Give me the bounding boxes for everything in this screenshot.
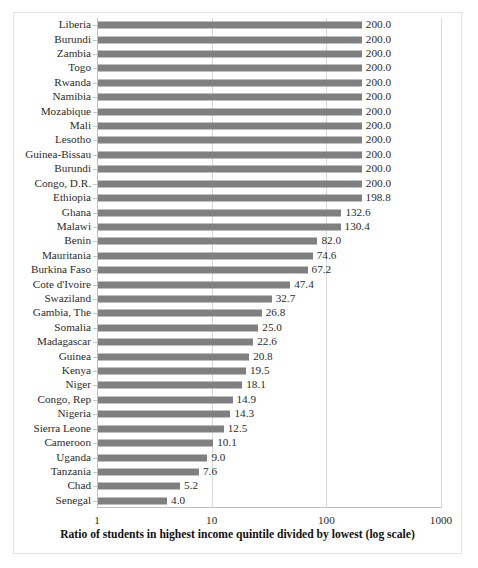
bar bbox=[98, 425, 224, 432]
y-tick-mark bbox=[93, 357, 97, 358]
y-tick-mark bbox=[93, 83, 97, 84]
bar-value-label: 12.5 bbox=[228, 423, 248, 434]
bar-value-label: 200.0 bbox=[366, 149, 391, 160]
bar-row: Kenya19.5 bbox=[97, 364, 441, 378]
bar-value-label: 26.8 bbox=[266, 308, 286, 319]
y-tick-mark bbox=[93, 371, 97, 372]
bar bbox=[98, 151, 362, 158]
bar-row: Guinea20.8 bbox=[97, 349, 441, 363]
x-tick-label: 1 bbox=[94, 514, 100, 526]
bar-row: Benin82.0 bbox=[97, 234, 441, 248]
bar-value-label: 200.0 bbox=[366, 120, 391, 131]
category-label: Mali bbox=[70, 120, 91, 131]
chart-inner: Liberia200.0Burundi200.0Zambia200.0Togo2… bbox=[14, 13, 461, 553]
bar-row: Burkina Faso67.2 bbox=[97, 263, 441, 277]
bar-row: Congo, D.R.200.0 bbox=[97, 177, 441, 191]
bar bbox=[98, 223, 341, 230]
bar bbox=[98, 468, 199, 475]
bar bbox=[98, 281, 290, 288]
y-tick-mark bbox=[93, 313, 97, 314]
bar-value-label: 200.0 bbox=[366, 106, 391, 117]
category-label: Rwanda bbox=[54, 77, 91, 88]
bar-row: Nigeria14.3 bbox=[97, 407, 441, 421]
bar-value-label: 200.0 bbox=[366, 34, 391, 45]
bar-row: Somalia25.0 bbox=[97, 321, 441, 335]
x-axis-title: Ratio of students in highest income quin… bbox=[14, 528, 461, 541]
bar-row: Niger18.1 bbox=[97, 378, 441, 392]
y-tick-mark bbox=[93, 443, 97, 444]
category-label: Chad bbox=[67, 481, 91, 492]
bar bbox=[98, 94, 362, 101]
bar-value-label: 82.0 bbox=[321, 236, 341, 247]
bar-row: Cameroon10.1 bbox=[97, 436, 441, 450]
plot-area: Liberia200.0Burundi200.0Zambia200.0Togo2… bbox=[97, 18, 441, 508]
gridline bbox=[441, 18, 442, 508]
bar-row: Ethiopia198.8 bbox=[97, 191, 441, 205]
bar bbox=[98, 483, 180, 490]
bar bbox=[98, 65, 362, 72]
bar-row: Guinea-Bissau200.0 bbox=[97, 148, 441, 162]
bar-value-label: 9.0 bbox=[211, 452, 225, 463]
category-label: Swaziland bbox=[44, 293, 91, 304]
y-tick-mark bbox=[93, 126, 97, 127]
category-label: Somalia bbox=[54, 322, 91, 333]
bar-row: Uganda9.0 bbox=[97, 450, 441, 464]
bar bbox=[98, 238, 317, 245]
y-tick-mark bbox=[93, 400, 97, 401]
bar bbox=[98, 195, 362, 202]
bar bbox=[98, 368, 246, 375]
bar-row: Malawi130.4 bbox=[97, 220, 441, 234]
y-tick-mark bbox=[93, 458, 97, 459]
y-tick-mark bbox=[93, 140, 97, 141]
bar-row: Madagascar22.6 bbox=[97, 335, 441, 349]
bar-value-label: 200.0 bbox=[366, 63, 391, 74]
bar-row: Senegal4.0 bbox=[97, 494, 441, 508]
bar bbox=[98, 296, 272, 303]
category-label: Mauritania bbox=[42, 250, 91, 261]
y-tick-mark bbox=[93, 25, 97, 26]
bar bbox=[98, 497, 167, 504]
bar bbox=[98, 396, 233, 403]
y-tick-mark bbox=[93, 97, 97, 98]
bar-value-label: 25.0 bbox=[262, 322, 282, 333]
x-tick-label: 100 bbox=[318, 514, 335, 526]
bar bbox=[98, 22, 362, 29]
bar bbox=[98, 166, 362, 173]
category-label: Cameroon bbox=[44, 438, 91, 449]
bar-value-label: 198.8 bbox=[366, 193, 391, 204]
bar-value-label: 132.6 bbox=[345, 207, 370, 218]
bar-value-label: 32.7 bbox=[276, 293, 296, 304]
bar-row: Mauritania74.6 bbox=[97, 249, 441, 263]
chart-frame: Liberia200.0Burundi200.0Zambia200.0Togo2… bbox=[13, 12, 462, 554]
bar-value-label: 200.0 bbox=[366, 178, 391, 189]
y-tick-mark bbox=[93, 54, 97, 55]
category-label: Togo bbox=[68, 63, 91, 74]
y-tick-mark bbox=[93, 501, 97, 502]
bar bbox=[98, 382, 242, 389]
bar-value-label: 7.6 bbox=[203, 466, 217, 477]
category-label: Cote d'Ivoire bbox=[33, 279, 91, 290]
bar-value-label: 14.9 bbox=[237, 394, 257, 405]
category-label: Namibia bbox=[52, 92, 91, 103]
y-tick-mark bbox=[93, 198, 97, 199]
bar-row: Gambia, The26.8 bbox=[97, 306, 441, 320]
bar-row: Swaziland32.7 bbox=[97, 292, 441, 306]
bar bbox=[98, 267, 308, 274]
bar bbox=[98, 51, 362, 58]
category-label: Ethiopia bbox=[53, 193, 91, 204]
category-label: Gambia, The bbox=[33, 308, 91, 319]
bar-row: Namibia200.0 bbox=[97, 90, 441, 104]
bar-row: Mali200.0 bbox=[97, 119, 441, 133]
y-tick-mark bbox=[93, 169, 97, 170]
category-label: Senegal bbox=[56, 495, 91, 506]
category-label: Burundi bbox=[54, 164, 91, 175]
bar-row: Ghana132.6 bbox=[97, 205, 441, 219]
bar-value-label: 18.1 bbox=[246, 380, 266, 391]
bar-value-label: 47.4 bbox=[294, 279, 314, 290]
y-tick-mark bbox=[93, 299, 97, 300]
bar bbox=[98, 324, 258, 331]
bar-value-label: 5.2 bbox=[184, 481, 198, 492]
bar-row: Togo200.0 bbox=[97, 61, 441, 75]
category-label: Ghana bbox=[62, 207, 91, 218]
bar-value-label: 130.4 bbox=[345, 221, 370, 232]
